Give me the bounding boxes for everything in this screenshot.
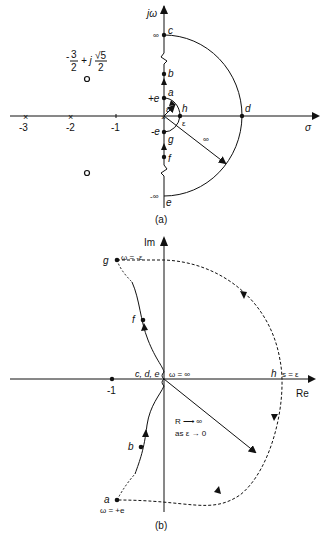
- point-f: [162, 155, 166, 159]
- R-radius: [164, 379, 255, 452]
- re-label: Re: [296, 388, 309, 399]
- svg-text:2: 2: [71, 62, 77, 73]
- re-axis-arrow-icon: [308, 375, 316, 383]
- tick-label-minus1: -1: [111, 122, 120, 133]
- pole-marker-minus3: ×: [23, 112, 28, 122]
- svg-text:3: 3: [71, 49, 77, 60]
- label-minus-e: -e: [151, 126, 160, 137]
- label-h-b: h: [271, 368, 277, 379]
- dashed-g-segment: [117, 260, 132, 282]
- caption-b: (b): [155, 520, 167, 531]
- point-h: [178, 114, 182, 118]
- svg-text:-: -: [66, 51, 69, 62]
- label-plus-e: +e: [148, 93, 160, 104]
- point-a: [162, 96, 166, 100]
- label-b-b: b: [128, 441, 134, 452]
- label-cde: c, d, e: [135, 369, 160, 379]
- label-R-limit: R ⟶ ∞: [175, 417, 202, 426]
- curve-upper-arrow-icon: [141, 323, 148, 331]
- jw-label: jω: [145, 8, 157, 19]
- label-infinity-top: ∞: [153, 31, 159, 40]
- sigma-axis-arrow-icon: [312, 112, 320, 120]
- zero-label: - 3 2 + j √5 2: [66, 49, 107, 73]
- label-omega-infinity: ω = ∞: [169, 370, 190, 379]
- figure-b: Re Im -1 g ω = -ε f c, d, e: [10, 236, 316, 531]
- point-g: [162, 130, 166, 134]
- zero-lower: [85, 171, 90, 176]
- nyquist-diagram: σ jω × × -3 -2 -1 × - 3 2 + j √5 2: [0, 0, 322, 543]
- dashed-arrow-icon-1: [240, 291, 247, 299]
- point-g-b: [115, 258, 120, 263]
- axis-up-arrow-icon-2: [161, 143, 167, 150]
- tick-label-minus3: -3: [19, 122, 28, 133]
- dashed-arrow-icon-2: [271, 414, 278, 421]
- label-omega-plus-e: ω = +e: [100, 506, 125, 515]
- svg-text:2: 2: [98, 62, 104, 73]
- label-epsilon-inner: ε: [166, 105, 170, 114]
- zero-upper: [85, 77, 90, 82]
- im-label: Im: [144, 237, 155, 248]
- label-c: c: [168, 25, 173, 36]
- label-f-b: f: [132, 314, 136, 325]
- axis-up-arrow-icon-1: [161, 78, 167, 85]
- curve-lower-arrow-icon: [142, 429, 149, 437]
- figure-a: σ jω × × -3 -2 -1 × - 3 2 + j √5 2: [10, 5, 320, 225]
- point-minus1: [110, 377, 114, 381]
- jw-axis-arrow-icon: [160, 5, 168, 14]
- caption-a: (a): [155, 214, 167, 225]
- point-b: [162, 72, 166, 76]
- label-infinity-bottom: -∞: [150, 192, 159, 201]
- sigma-label: σ: [305, 122, 312, 133]
- label-radius-infinity: ∞: [203, 135, 209, 144]
- label-h: h: [182, 103, 188, 114]
- label-a: a: [168, 87, 174, 98]
- pole-marker-minus2: ×: [68, 112, 73, 122]
- label-g: g: [168, 134, 174, 145]
- label-f: f: [168, 153, 172, 164]
- point-b-b: [139, 445, 144, 450]
- label-g-b: g: [103, 255, 109, 266]
- point-c: [162, 33, 166, 37]
- label-s-eps: s = ε: [282, 370, 299, 379]
- tick-label-minus1-b: -1: [107, 385, 116, 396]
- nyquist-curve-lower: [135, 386, 164, 474]
- svg-text:+ j: + j: [81, 55, 93, 66]
- label-epsilon: ε: [182, 119, 186, 128]
- label-d: d: [245, 103, 251, 114]
- label-b: b: [168, 68, 174, 79]
- label-e: e: [166, 197, 172, 208]
- label-as-eps: as ε → 0: [175, 429, 207, 438]
- label-a-b: a: [104, 494, 110, 505]
- dashed-contour: [117, 260, 282, 505]
- dashed-a-segment: [117, 474, 135, 500]
- im-axis-arrow-icon: [160, 236, 168, 246]
- svg-text:√5: √5: [95, 50, 106, 61]
- label-omega-minus-eps: ω = -ε: [121, 253, 143, 262]
- point-a-b: [115, 498, 120, 503]
- tick-label-minus2: -2: [66, 122, 75, 133]
- nyquist-curve-upper: [132, 282, 164, 372]
- point-d: [240, 114, 244, 118]
- dashed-arrow-icon-3: [214, 486, 221, 494]
- point-f-b: [141, 318, 146, 323]
